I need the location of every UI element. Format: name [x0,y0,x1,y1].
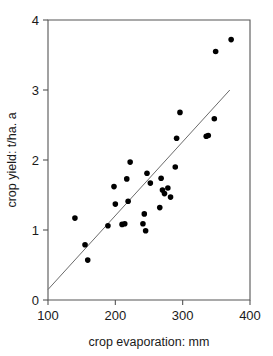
y-tick-label-3: 3 [32,83,39,98]
data-point-0-2 [85,257,91,263]
data-point-0-19 [162,191,168,197]
y-axis-title: crop yield: t/ha. a [5,112,19,207]
x-tick-label-400: 400 [239,308,261,323]
x-tick-label-300: 300 [172,308,194,323]
data-point-0-24 [177,110,183,116]
data-point-0-28 [213,49,219,55]
data-point-0-21 [168,194,174,200]
x-axis-title: crop evaporation: mm [89,335,210,349]
data-point-0-22 [172,164,178,170]
data-point-0-26 [205,133,211,139]
data-point-0-15 [148,180,154,186]
data-point-0-5 [113,201,119,207]
data-point-0-3 [105,223,111,229]
x-tick-label-100: 100 [37,308,59,323]
x-tick-label-200: 200 [104,308,126,323]
chart-canvas: 01234100200300400crop evaporation: mmcro… [0,0,273,356]
data-point-0-0 [72,215,78,221]
data-point-0-29 [228,37,234,43]
data-point-0-8 [124,176,130,182]
data-point-0-16 [157,205,163,211]
data-point-0-20 [165,185,171,191]
data-point-0-9 [125,199,131,205]
plot-frame [48,20,250,300]
data-point-0-12 [141,211,147,217]
data-point-0-4 [111,184,117,190]
y-tick-label-1: 1 [32,223,39,238]
data-point-0-14 [144,171,150,177]
data-point-0-23 [174,136,180,142]
y-tick-label-4: 4 [32,13,39,28]
data-point-0-11 [140,221,146,227]
data-point-0-27 [212,116,218,122]
scatter-chart-figure: 01234100200300400crop evaporation: mmcro… [0,0,273,356]
data-point-0-13 [143,228,149,234]
y-tick-label-0: 0 [32,293,39,308]
data-point-0-7 [122,221,128,227]
trend-line [48,90,230,290]
data-point-0-1 [82,242,88,248]
data-point-0-10 [127,159,133,165]
data-point-0-17 [158,175,164,181]
y-tick-label-2: 2 [32,153,39,168]
